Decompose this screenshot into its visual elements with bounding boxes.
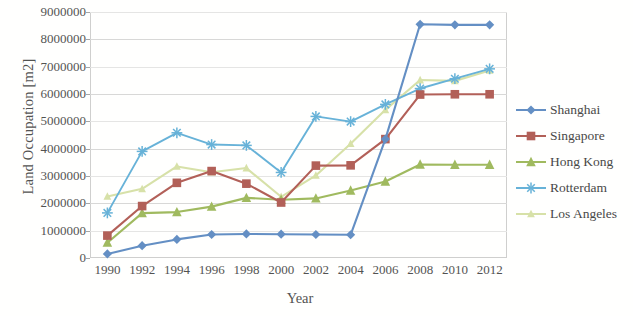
legend-swatch-icon: [516, 207, 546, 221]
data-point-marker: [484, 63, 495, 74]
data-point-marker: [526, 105, 535, 114]
data-point-marker: [346, 161, 355, 170]
legend-label: Hong Kong: [550, 154, 613, 170]
data-point-marker: [526, 183, 537, 194]
series-line: [107, 70, 489, 196]
x-tick-label: 1996: [199, 262, 225, 278]
legend-item-rotterdam[interactable]: Rotterdam: [516, 175, 633, 201]
y-tick-label: 3000000: [6, 168, 86, 184]
data-point-marker: [277, 230, 286, 239]
data-point-marker: [450, 20, 459, 29]
data-point-marker: [485, 20, 494, 29]
data-point-marker: [526, 157, 536, 166]
y-tick-label: 9000000: [6, 4, 86, 20]
x-tick-label: 2012: [477, 262, 503, 278]
data-point-marker: [277, 198, 286, 207]
data-point-marker: [449, 73, 460, 84]
y-tick-label: 8000000: [6, 31, 86, 47]
y-tick-label: 5000000: [6, 113, 86, 129]
y-tick-label: 6000000: [6, 86, 86, 102]
legend-swatch-icon: [516, 155, 546, 169]
y-tick-label: 1000000: [6, 223, 86, 239]
data-point-marker: [346, 230, 355, 239]
data-point-marker: [345, 116, 356, 127]
y-tick-mark: [86, 258, 90, 259]
series-shanghai: [103, 20, 494, 259]
data-point-marker: [138, 202, 147, 211]
data-point-marker: [416, 20, 425, 29]
data-point-marker: [312, 161, 321, 170]
data-point-marker: [485, 90, 494, 99]
legend-item-hong-kong[interactable]: Hong Kong: [516, 149, 633, 175]
data-point-marker: [527, 132, 536, 141]
y-tick-label: 0: [6, 250, 86, 266]
series-los-angeles: [104, 66, 494, 200]
x-tick-label: 1992: [129, 262, 155, 278]
legend-swatch-icon: [516, 129, 546, 143]
data-point-marker: [451, 90, 460, 99]
data-point-marker: [311, 230, 320, 239]
data-point-marker: [207, 167, 216, 176]
data-point-marker: [241, 140, 252, 151]
legend-item-singapore[interactable]: Singapore: [516, 123, 633, 149]
legend-label: Singapore: [550, 128, 605, 144]
legend-item-los-angeles[interactable]: Los Angeles: [516, 201, 633, 227]
x-tick-label: 2000: [268, 262, 294, 278]
data-point-marker: [103, 249, 112, 258]
data-point-marker: [380, 99, 391, 110]
x-axis-title: Year: [90, 290, 510, 307]
x-tick-label: 2002: [303, 262, 329, 278]
data-point-marker: [102, 208, 113, 219]
x-tick-label: 1990: [94, 262, 120, 278]
data-point-marker: [138, 241, 147, 250]
x-tick-label: 2010: [442, 262, 468, 278]
legend-label: Shanghai: [550, 102, 600, 118]
data-point-marker: [416, 90, 425, 99]
legend-swatch-icon: [516, 181, 546, 195]
legend-item-shanghai[interactable]: Shanghai: [516, 97, 633, 123]
data-point-marker: [172, 235, 181, 244]
y-tick-label: 7000000: [6, 59, 86, 75]
chart-figure: Land Occupation [m2] Year 01000000200000…: [0, 0, 633, 316]
series-layer: [90, 12, 507, 258]
data-point-marker: [242, 179, 251, 188]
x-tick-label: 2008: [407, 262, 433, 278]
x-tick-label: 2004: [338, 262, 364, 278]
x-tick-label: 1994: [164, 262, 190, 278]
data-point-marker: [206, 139, 217, 150]
data-point-marker: [527, 210, 535, 218]
series-line: [107, 165, 489, 243]
x-tick-label: 2006: [372, 262, 398, 278]
data-point-marker: [173, 179, 182, 188]
y-tick-label: 2000000: [6, 195, 86, 211]
data-point-marker: [310, 111, 321, 122]
chart-legend: ShanghaiSingaporeHong KongRotterdamLos A…: [516, 97, 633, 227]
series-rotterdam: [102, 63, 495, 218]
data-point-marker: [103, 231, 112, 240]
data-point-marker: [171, 127, 182, 138]
legend-label: Los Angeles: [550, 206, 617, 222]
legend-swatch-icon: [516, 103, 546, 117]
data-point-marker: [207, 230, 216, 239]
legend-label: Rotterdam: [550, 180, 607, 196]
x-tick-label: 1998: [233, 262, 259, 278]
plot-area: [90, 12, 507, 258]
data-point-marker: [242, 229, 251, 238]
y-tick-label: 4000000: [6, 141, 86, 157]
data-point-marker: [137, 146, 148, 157]
